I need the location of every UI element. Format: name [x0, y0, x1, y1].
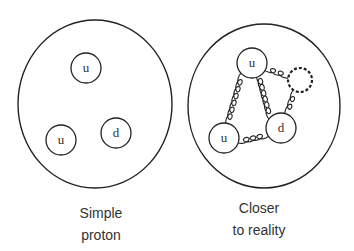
realistic-proton-panel: u u d — [188, 24, 340, 188]
svg-text:u: u — [249, 55, 256, 70]
closer-to-reality-label: Closer to reality — [219, 197, 299, 241]
svg-text:u: u — [83, 60, 90, 75]
simple-proton-panel: u u d — [18, 20, 172, 188]
quark-u-top: u — [237, 48, 267, 78]
gluon-utop-ubottom — [226, 73, 244, 127]
gluon-ubottom-d — [237, 133, 270, 144]
svg-text:u: u — [221, 130, 228, 145]
gluon-loop-d — [285, 89, 297, 117]
svg-text:u: u — [58, 132, 65, 147]
simple-proton-label: Simple proton — [66, 202, 136, 246]
quark-u-bottom: u — [46, 125, 76, 155]
quark-u-top: u — [71, 53, 101, 83]
gluon-utop-d — [257, 72, 273, 119]
gluon-loop — [288, 68, 312, 92]
quark-d: d — [266, 113, 296, 143]
quark-d: d — [101, 118, 131, 148]
label-line-1: Closer — [219, 197, 299, 219]
svg-text:d: d — [113, 125, 120, 140]
label-line-2: to reality — [219, 219, 299, 241]
label-line-1: Simple — [66, 202, 136, 224]
proton-boundary — [18, 20, 172, 188]
label-line-2: proton — [66, 224, 136, 246]
svg-text:d: d — [278, 120, 285, 135]
gluon-utop-loop — [263, 66, 291, 78]
quark-u-bottom: u — [209, 123, 239, 153]
proton-diagram: u u d u — [0, 0, 354, 251]
